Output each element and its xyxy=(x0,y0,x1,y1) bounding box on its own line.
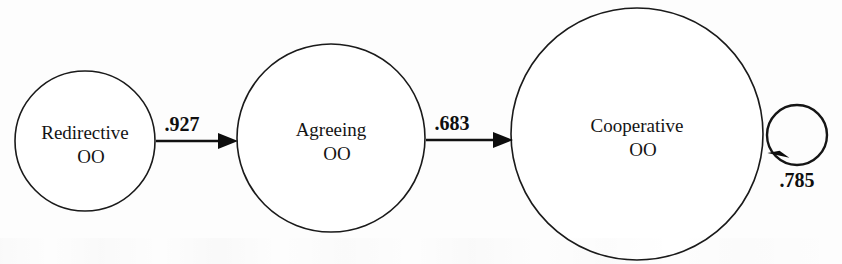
node-agreeing-label: Agreeing xyxy=(296,119,367,140)
node-cooperative-label: Cooperative xyxy=(591,115,684,136)
node-redirective[interactable]: Redirective OO xyxy=(15,71,155,211)
edge-label-785: .785 xyxy=(780,169,815,191)
node-cooperative[interactable]: Cooperative OO xyxy=(511,8,763,260)
self-loop-circle[interactable] xyxy=(767,105,827,165)
node-redirective-label: Redirective xyxy=(41,122,129,143)
edge-label-927: .927 xyxy=(165,113,200,135)
edge-agreeing-to-cooperative[interactable]: .683 xyxy=(426,112,513,148)
arrowhead-icon-683 xyxy=(493,132,513,148)
state-diagram-canvas: Redirective OO Agreeing OO Cooperative O… xyxy=(0,0,842,264)
edge-label-683: .683 xyxy=(435,112,470,134)
node-cooperative-sublabel: OO xyxy=(629,139,656,160)
node-agreeing-sublabel: OO xyxy=(323,143,350,164)
node-redirective-sublabel: OO xyxy=(77,146,104,167)
self-loop-cooperative[interactable]: .785 xyxy=(767,105,827,191)
node-agreeing[interactable]: Agreeing OO xyxy=(237,44,425,232)
arrowhead-icon-927 xyxy=(218,133,238,149)
edge-redirective-to-agreeing[interactable]: .927 xyxy=(156,113,238,149)
diagram-svg: Redirective OO Agreeing OO Cooperative O… xyxy=(0,0,842,264)
